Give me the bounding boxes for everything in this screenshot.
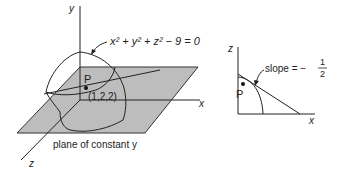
slope-denominator: 2: [320, 69, 325, 79]
point-p-marker: [84, 86, 88, 90]
inset-z-axis-label: z: [227, 43, 233, 54]
point-p-label: P: [84, 73, 91, 85]
inset-tangent-line: [238, 74, 300, 114]
diagram-canvas: P (1,2,2) y x z x² + y² + z² − 9 = 0 pla…: [0, 0, 337, 171]
y-axis-label: y: [68, 3, 75, 14]
equation-pointer-arrow: [93, 42, 107, 52]
point-coords-label: (1,2,2): [88, 91, 117, 102]
slope-numerator: 1: [320, 57, 325, 67]
equation-arrowhead-icon: [91, 49, 96, 55]
inset-point-p-marker: [241, 82, 245, 86]
z-axis-label: z: [28, 158, 34, 169]
x-axis-label: x: [198, 98, 205, 109]
sphere-equation: x² + y² + z² − 9 = 0: [109, 35, 201, 47]
slope-label: slope = −: [265, 63, 306, 74]
inset-point-p-label: P: [236, 88, 243, 100]
plane-caption: plane of constant y: [53, 139, 137, 150]
inset-x-axis-label: x: [308, 115, 315, 126]
